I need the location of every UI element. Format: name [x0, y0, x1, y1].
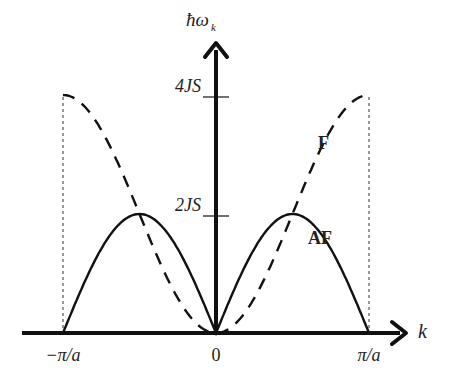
y-tick-2JS: 2JS [175, 195, 201, 215]
x-tick-neg: −π/a [45, 345, 80, 365]
x-tick-zero: 0 [212, 345, 221, 365]
chart-canvas: ħωk k −π/a 0 π/a 4JS 2JS F AF [0, 0, 450, 371]
x-tick-pos: π/a [357, 345, 380, 365]
y-tick-4JS: 4JS [175, 76, 201, 96]
y-axis-label: ħωk [186, 9, 217, 33]
label-AF: AF [308, 228, 332, 248]
label-F: F [318, 133, 329, 153]
dispersion-chart: ħωk k −π/a 0 π/a 4JS 2JS F AF [0, 0, 450, 371]
x-axis-label: k [418, 320, 428, 342]
